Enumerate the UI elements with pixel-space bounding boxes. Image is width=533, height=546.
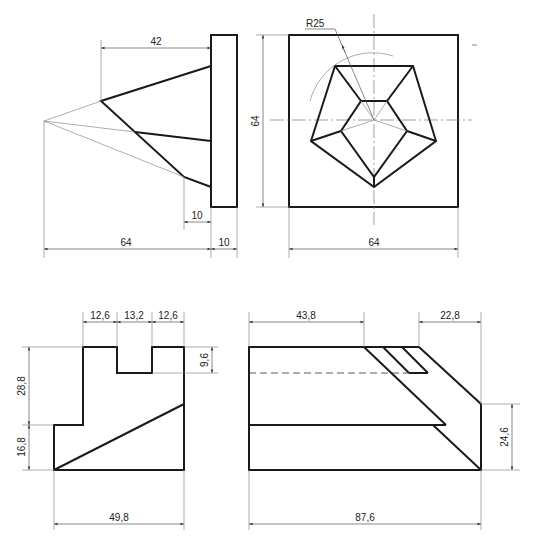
pyramid-edge-middle [135,132,211,141]
dim-64-width-label: 64 [368,237,380,248]
outer-pentagon [311,66,436,187]
dim-slot-right-label: 12,6 [158,310,178,321]
dim-10-plate-label: 10 [218,237,230,248]
dim-slot-left-label: 12,6 [90,310,110,321]
dim-lower-height-label: 16,8 [16,437,27,457]
center-ray [361,101,374,120]
construction-line [44,101,101,121]
dim-64-length-label: 64 [120,237,132,248]
connector-edge [387,66,413,101]
view-bottom-right: 43,8 22,8 24,6 87,6 [249,310,520,530]
dim-overall-length-label: 87,6 [355,512,375,523]
dim-right-length-label: 22,8 [440,310,460,321]
dim-slot-width-label: 13,2 [124,310,144,321]
dim-slot-depth-label: 9,6 [199,353,210,367]
center-ray [374,101,387,120]
view-bottom-left: 12,6 13,2 12,6 9,6 28,8 16,8 49,8 [16,310,218,530]
radius-arrow [342,45,345,52]
connector-edge [311,131,341,141]
dim-left-length-label: 43,8 [296,310,316,321]
pyramid-edge-outer [101,66,211,187]
dim-42-label: 42 [150,36,162,47]
radius-arc [310,53,393,101]
dim-upper-height-label: 28,8 [16,376,27,396]
view-top-left: 42 10 64 10 [44,35,237,258]
view-top-right: R25 64 64 [250,14,477,258]
front-outline [249,347,481,470]
dim-64-height-label: 64 [250,115,261,127]
center-ray [374,120,407,131]
radius-label: R25 [306,18,325,29]
diagonal-edge [364,347,446,425]
dim-right-height-label: 24,6 [499,427,510,447]
connector-edge [335,66,361,101]
connector-edge [407,131,436,141]
stepped-block-outline [54,347,184,470]
radius-leader [305,29,374,120]
dim-width-label: 49,8 [109,512,129,523]
technical-drawing: 42 10 64 10 R25 [0,0,533,546]
lower-diagonal [433,425,481,470]
diagonal-edge [54,404,184,470]
center-ray [341,120,374,131]
dim-10-inner-label: 10 [191,210,203,221]
plate-outline [211,35,237,207]
